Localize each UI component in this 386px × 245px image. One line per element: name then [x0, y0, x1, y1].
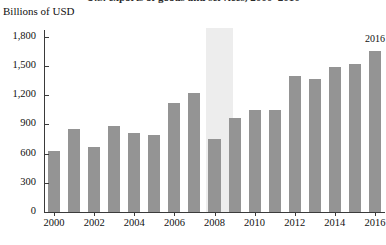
bar-2014 [329, 67, 341, 212]
y-axis-line [44, 30, 45, 213]
x-tick-mark-2000 [54, 212, 55, 216]
x-tick-mark-2010 [255, 212, 256, 216]
bar-2008 [208, 139, 220, 212]
y-tick-mark-0 [45, 212, 49, 213]
bar-chart: U.S. exports of goods and services, 2000… [0, 0, 386, 245]
bar-2015 [349, 64, 361, 212]
x-tick-mark-2014 [335, 212, 336, 216]
bar-2009 [229, 118, 241, 212]
y-tick-mark-1200 [45, 95, 49, 96]
y-tick-label-300: 300 [0, 176, 36, 187]
bar-2016 [369, 51, 381, 212]
bar-2004 [128, 133, 140, 212]
y-tick-label-1200: 1,200 [0, 88, 36, 99]
bar-2010 [249, 110, 261, 212]
bar-2011 [269, 110, 281, 212]
x-tick-label-2002: 2002 [84, 217, 105, 228]
y-tick-mark-1500 [45, 66, 49, 67]
x-tick-label-2014: 2014 [324, 217, 345, 228]
x-tick-label-2006: 2006 [164, 217, 185, 228]
x-tick-label-2008: 2008 [204, 217, 225, 228]
bar-2000 [48, 151, 60, 212]
annotation-2016: 2016 [365, 33, 385, 44]
bar-2005 [148, 135, 160, 212]
x-tick-mark-2004 [134, 212, 135, 216]
y-tick-label-1500: 1,500 [0, 59, 36, 70]
x-tick-label-2010: 2010 [244, 217, 265, 228]
bar-2001 [68, 129, 80, 212]
bar-2003 [108, 126, 120, 212]
y-tick-mark-900 [45, 124, 49, 125]
y-tick-label-600: 600 [0, 147, 36, 158]
y-tick-label-900: 900 [0, 117, 36, 128]
x-tick-label-2016: 2016 [364, 217, 385, 228]
y-tick-mark-300 [45, 183, 49, 184]
x-tick-mark-2008 [215, 212, 216, 216]
y-tick-mark-1800 [45, 37, 49, 38]
x-tick-label-2004: 2004 [124, 217, 145, 228]
y-tick-label-0: 0 [0, 205, 36, 216]
x-tick-mark-2002 [94, 212, 95, 216]
bar-2006 [168, 103, 180, 212]
bars-layer [0, 0, 386, 245]
bar-2002 [88, 147, 100, 212]
y-tick-mark-600 [45, 154, 49, 155]
bar-2012 [289, 76, 301, 212]
x-tick-label-2012: 2012 [284, 217, 305, 228]
x-tick-mark-2012 [295, 212, 296, 216]
bar-2007 [188, 93, 200, 212]
bar-2013 [309, 79, 321, 212]
x-tick-label-2000: 2000 [44, 217, 65, 228]
x-tick-mark-2016 [375, 212, 376, 216]
x-tick-mark-2006 [174, 212, 175, 216]
y-tick-label-1800: 1,800 [0, 30, 36, 41]
